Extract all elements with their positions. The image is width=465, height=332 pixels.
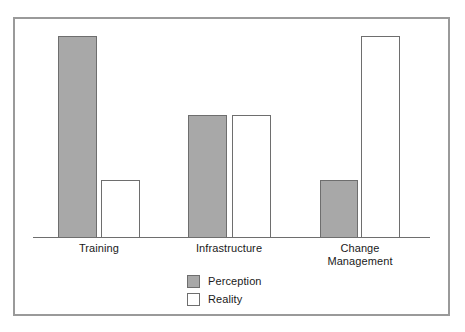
bar-change-management-perception	[320, 180, 358, 238]
chart-legend: PerceptionReality	[187, 273, 262, 309]
legend-label-perception: Perception	[208, 275, 262, 288]
legend-label-reality: Reality	[208, 293, 242, 306]
bar-change-management-reality	[361, 36, 400, 238]
x-axis-line	[33, 237, 430, 238]
category-label-0: Training	[49, 242, 149, 255]
bar-training-perception	[58, 36, 97, 238]
chart-figure: TrainingInfrastructureChange Management …	[0, 0, 465, 332]
legend-swatch-perception-icon	[187, 275, 200, 288]
bar-infrastructure-reality	[232, 115, 271, 238]
plot-area: TrainingInfrastructureChange Management …	[0, 0, 465, 332]
bar-training-reality	[101, 180, 140, 238]
legend-swatch-reality-icon	[187, 293, 200, 306]
category-label-2: Change Management	[310, 242, 410, 268]
legend-row-perception: Perception	[187, 273, 262, 289]
category-label-1: Infrastructure	[179, 242, 279, 255]
bar-infrastructure-perception	[188, 115, 227, 238]
legend-row-reality: Reality	[187, 291, 262, 307]
